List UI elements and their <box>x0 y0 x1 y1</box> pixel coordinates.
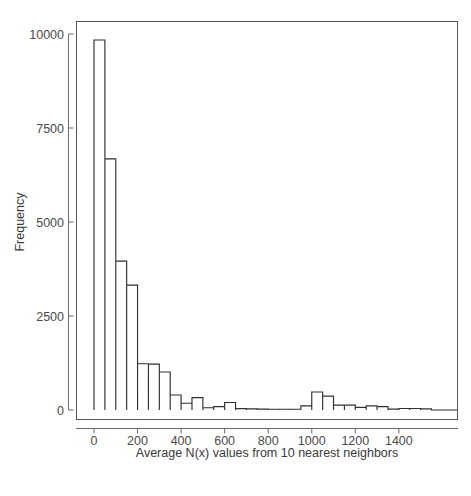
y-tick-label: 7500 <box>36 122 64 136</box>
y-tick-label: 10000 <box>29 28 64 42</box>
histogram-bars <box>94 40 457 410</box>
plot-frame <box>77 22 458 420</box>
x-axis-title: Average N(x) values from 10 nearest neig… <box>136 446 398 460</box>
y-axis-title: Frequency <box>13 192 27 252</box>
y-tick-group <box>69 34 74 410</box>
histogram-plot: 025005000750010000 020040060080010001200… <box>0 0 471 496</box>
x-tick-label: 0 <box>91 434 98 448</box>
histogram-figure: 025005000750010000 020040060080010001200… <box>0 0 471 496</box>
y-tick-label: 5000 <box>36 216 64 230</box>
y-tick-label: 2500 <box>36 310 64 324</box>
x-tick-group <box>94 429 399 434</box>
y-tick-label: 0 <box>57 404 64 418</box>
y-tick-label-group: 025005000750010000 <box>29 28 64 418</box>
